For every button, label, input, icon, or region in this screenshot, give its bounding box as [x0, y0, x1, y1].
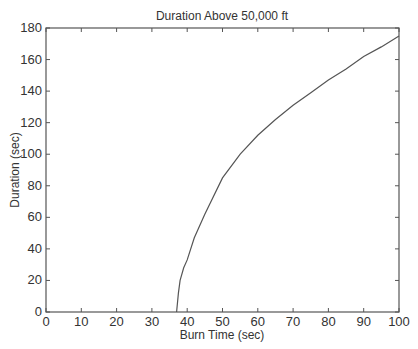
x-tick-label: 40 [180, 314, 194, 329]
x-tick-label: 100 [388, 314, 410, 329]
x-tick-label: 30 [145, 314, 159, 329]
x-tick-label: 10 [74, 314, 88, 329]
y-tick-label: 160 [20, 52, 42, 67]
line-chart: Duration Above 50,000 ft 010203040506070… [0, 0, 418, 349]
x-axis-title: Burn Time (sec) [180, 328, 265, 342]
plot-frame [46, 28, 399, 312]
x-tick-label: 60 [251, 314, 265, 329]
y-tick-label: 80 [28, 178, 42, 193]
x-tick-label: 0 [42, 314, 49, 329]
x-tick-label: 50 [215, 314, 229, 329]
data-line [177, 36, 399, 312]
y-tick-label: 120 [20, 115, 42, 130]
chart-title: Duration Above 50,000 ft [156, 9, 289, 23]
y-tick-label: 100 [20, 146, 42, 161]
x-tick-label: 70 [286, 314, 300, 329]
x-tick-label: 20 [109, 314, 123, 329]
y-tick-label: 40 [28, 241, 42, 256]
y-tick-label: 60 [28, 209, 42, 224]
y-tick-label: 140 [20, 83, 42, 98]
plot-area: 0102030405060708090100020406080100120140… [20, 20, 410, 329]
x-tick-label: 90 [356, 314, 370, 329]
y-tick-label: 20 [28, 272, 42, 287]
y-tick-label: 0 [35, 304, 42, 319]
y-axis-title: Duration (sec) [8, 132, 22, 207]
y-tick-label: 180 [20, 20, 42, 35]
x-tick-label: 80 [321, 314, 335, 329]
